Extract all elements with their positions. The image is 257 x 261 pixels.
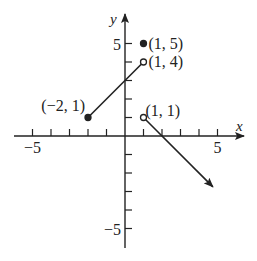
point-1-5 — [141, 41, 147, 47]
point-1-1-label: (1, 1) — [146, 102, 181, 120]
x-tick-label: −5 — [24, 139, 41, 156]
piecewise-graph: −555−5 (1, 5)(1, 4)(−2, 1)(1, 1) x y — [0, 0, 257, 261]
segment-left — [88, 62, 144, 118]
x-axis-label: x — [235, 118, 243, 134]
y-axis-label: y — [108, 11, 117, 27]
segments — [88, 62, 213, 187]
y-tick-label: −5 — [104, 221, 121, 238]
point-1-5-label: (1, 5) — [149, 35, 184, 53]
ray-right — [144, 118, 213, 187]
point-1-4-label: (1, 4) — [149, 53, 184, 71]
y-tick-label: 5 — [113, 36, 121, 53]
axes — [14, 14, 244, 248]
point-1-4 — [141, 59, 147, 65]
point-neg2-1 — [85, 115, 91, 121]
point-neg2-1-label: (−2, 1) — [41, 97, 85, 115]
x-tick-label: 5 — [214, 139, 222, 156]
